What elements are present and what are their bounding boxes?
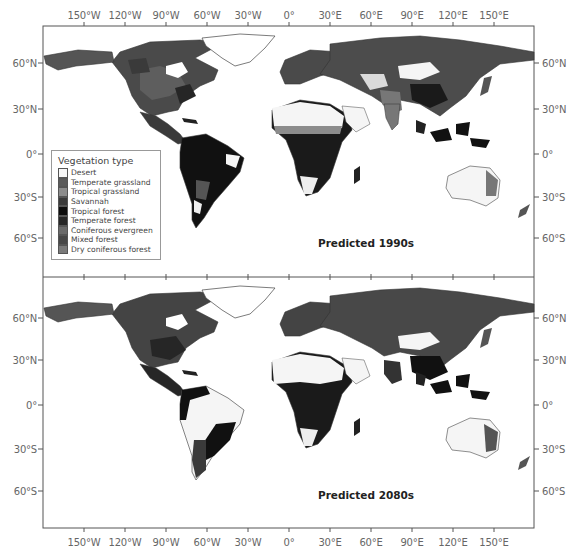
lon-label-bottom: 150°E (479, 537, 508, 548)
swatch-tropical-grassland (58, 187, 68, 197)
legend-label: Dry coniferous forest (71, 245, 151, 254)
swatch-tropical-forest (58, 206, 68, 216)
legend-item-temperate-forest: Temperate forest (58, 216, 154, 226)
lon-label-bottom: 120°E (438, 537, 467, 548)
swatch-temperate-grassland (58, 178, 68, 188)
legend-label: Tropical grassland (71, 187, 139, 196)
lat-label-left: 60°S (3, 233, 37, 244)
lon-label-top: 0° (284, 10, 295, 21)
lon-label-bottom: 90°W (153, 537, 180, 548)
lon-label-bottom: 150°W (68, 537, 101, 548)
lon-label-top: 30°E (318, 10, 341, 21)
map-panel-2080s (44, 286, 534, 480)
swatch-mixed-forest (58, 235, 68, 245)
lat-label-left: 0° (3, 400, 37, 411)
lat-label-left: 60°S (3, 486, 37, 497)
legend-item-tropical-grassland: Tropical grassland (58, 187, 154, 197)
lat-label-right: 60°N (542, 313, 566, 324)
lon-label-top: 120°E (438, 10, 467, 21)
lat-label-right: 60°N (542, 58, 566, 69)
lat-label-left: 30°N (3, 355, 37, 366)
vegetation-map-figure: 150°W 120°W 90°W 60°W 30°W 0° 30°E 60°E … (0, 0, 575, 557)
lon-label-top: 90°W (153, 10, 180, 21)
lon-label-top: 120°W (109, 10, 142, 21)
lon-label-top: 150°E (479, 10, 508, 21)
legend-title: Vegetation type (58, 155, 154, 166)
legend-item-desert: Desert (58, 168, 154, 178)
swatch-temperate-forest (58, 216, 68, 226)
lat-label-right: 30°N (542, 355, 566, 366)
lat-label-left: 60°N (3, 58, 37, 69)
legend-item-dry-coniferous-forest: Dry coniferous forest (58, 245, 154, 255)
lon-label-top: 60°E (359, 10, 382, 21)
lon-label-top: 60°W (194, 10, 221, 21)
swatch-desert (58, 168, 68, 178)
lon-label-top: 30°W (235, 10, 262, 21)
lon-label-bottom: 0° (284, 537, 295, 548)
lat-label-right: 60°S (542, 486, 565, 497)
lat-label-left: 60°N (3, 313, 37, 324)
lat-label-left: 0° (3, 149, 37, 160)
legend-item-temperate-grassland: Temperate grassland (58, 178, 154, 188)
legend-label: Temperate forest (71, 216, 136, 225)
lat-label-right: 0° (542, 149, 553, 160)
lon-label-bottom: 30°W (235, 537, 262, 548)
lat-label-right: 30°N (542, 104, 566, 115)
panel-title-2080s: Predicted 2080s (318, 489, 414, 501)
lat-label-right: 30°S (542, 192, 565, 203)
legend-label: Desert (71, 168, 96, 177)
legend-label: Coniferous evergreen (71, 226, 153, 235)
legend-item-tropical-forest: Tropical forest (58, 206, 154, 216)
legend-item-coniferous-evergreen: Coniferous evergreen (58, 226, 154, 236)
lon-label-bottom: 60°W (194, 537, 221, 548)
lat-label-left: 30°S (3, 444, 37, 455)
vegetation-legend: Vegetation type Desert Temperate grassla… (51, 150, 161, 260)
lat-label-right: 0° (542, 400, 553, 411)
lat-label-right: 60°S (542, 233, 565, 244)
legend-label: Tropical forest (71, 207, 124, 216)
lat-label-right: 30°S (542, 444, 565, 455)
swatch-coniferous-evergreen (58, 226, 68, 236)
legend-item-savannah: Savannah (58, 197, 154, 207)
map-frames (0, 0, 575, 557)
lon-label-bottom: 90°E (400, 537, 423, 548)
legend-item-mixed-forest: Mixed forest (58, 235, 154, 245)
lon-label-bottom: 60°E (359, 537, 382, 548)
lon-label-top: 150°W (68, 10, 101, 21)
lon-label-bottom: 120°W (109, 537, 142, 548)
lon-label-bottom: 30°E (318, 537, 341, 548)
legend-label: Temperate grassland (71, 178, 151, 187)
lat-label-left: 30°S (3, 192, 37, 203)
legend-label: Mixed forest (71, 235, 118, 244)
swatch-savannah (58, 197, 68, 207)
panel-title-1990s: Predicted 1990s (318, 237, 414, 249)
swatch-dry-coniferous-forest (58, 245, 68, 255)
lon-label-top: 90°E (400, 10, 423, 21)
legend-label: Savannah (71, 197, 109, 206)
lat-label-left: 30°N (3, 104, 37, 115)
